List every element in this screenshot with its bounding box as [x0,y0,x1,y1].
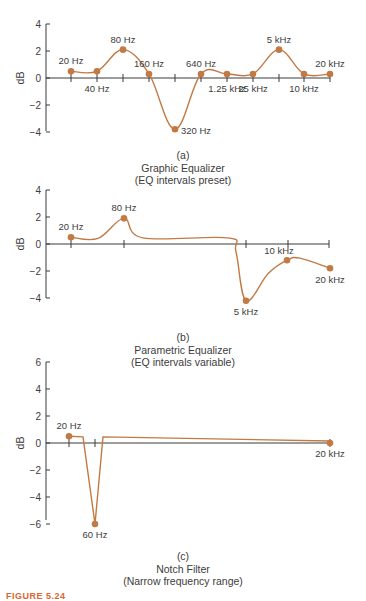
chart-notch-filter: 6420−2−4−6dB20 Hz60 Hz20 kHz [14,357,345,541]
point-label: 60 Hz [83,529,108,540]
chart-parametric-equalizer: 420−2−4dB20 Hz80 Hz5 kHz10 kHz20 kHz [14,185,345,317]
point-label: 20 kHz [315,274,345,285]
y-tick-label: −6 [30,519,42,530]
data-point [327,265,334,272]
caption-subtitle: (Narrow frequency range) [0,575,366,588]
point-label: 20 kHz [315,58,345,69]
point-label: 80 Hz [112,202,137,213]
point-label: 80 Hz [111,34,136,45]
data-point [224,71,231,78]
data-point [121,215,128,222]
data-point [92,521,99,528]
data-point [243,297,250,304]
chart-graphic-equalizer: 420−2−4dB20 Hz40 Hz80 Hz160 Hz320 Hz640 … [14,19,345,138]
y-axis-label: dB [14,72,26,85]
data-point [66,433,73,440]
data-point [120,46,127,53]
response-curve [69,436,330,524]
point-label: 25 kHz [238,83,268,94]
point-label: 320 Hz [181,125,211,136]
caption-panel-label: (b) [0,331,366,344]
y-tick-label: −2 [30,266,42,277]
point-label: 40 Hz [85,83,110,94]
caption-subtitle: (EQ intervals preset) [0,174,366,187]
y-tick-label: 2 [35,46,41,57]
data-point [327,71,334,78]
point-label: 640 Hz [186,58,216,69]
figure-number-label: FIGURE 5.24 [6,591,66,601]
y-tick-label: 2 [35,411,41,422]
caption-title: Graphic Equalizer [0,162,366,175]
caption-subtitle: (EQ intervals variable) [0,356,366,369]
y-tick-label: 2 [35,212,41,223]
data-point [276,46,283,53]
y-tick-label: 0 [35,73,41,84]
point-label: 160 Hz [134,58,164,69]
caption-panel-label: (c) [0,550,366,563]
data-point [284,257,291,264]
y-tick-label: 4 [35,384,41,395]
y-tick-label: 4 [35,19,41,30]
data-point [198,71,205,78]
y-tick-label: −4 [30,127,42,138]
caption-notch-filter: (c) Notch Filter (Narrow frequency range… [0,550,366,588]
data-point [146,71,153,78]
caption-parametric-equalizer: (b) Parametric Equalizer (EQ intervals v… [0,331,366,369]
y-tick-label: −2 [30,465,42,476]
y-tick-label: −4 [30,293,42,304]
point-label: 10 kHz [289,83,319,94]
y-tick-label: 0 [35,239,41,250]
data-point [301,71,308,78]
y-tick-label: −2 [30,100,42,111]
data-point [68,234,75,241]
caption-title: Parametric Equalizer [0,344,366,357]
point-label: 20 Hz [59,221,84,232]
point-label: 10 kHz [264,245,294,256]
caption-title: Notch Filter [0,563,366,576]
data-point [250,71,257,78]
y-axis-label: dB [14,238,26,251]
point-label: 20 Hz [57,420,82,431]
data-point [68,68,75,75]
point-label: 5 kHz [267,34,292,45]
data-point [327,440,334,447]
point-label: 5 kHz [234,306,259,317]
y-axis-label: dB [14,437,26,450]
y-tick-label: −4 [30,492,42,503]
response-curve [71,218,330,301]
y-tick-label: 0 [35,438,41,449]
caption-panel-label: (a) [0,149,366,162]
data-point [172,126,179,133]
point-label: 20 kHz [315,448,345,459]
point-label: 20 Hz [59,55,84,66]
data-point [94,68,101,75]
caption-graphic-equalizer: (a) Graphic Equalizer (EQ intervals pres… [0,149,366,187]
